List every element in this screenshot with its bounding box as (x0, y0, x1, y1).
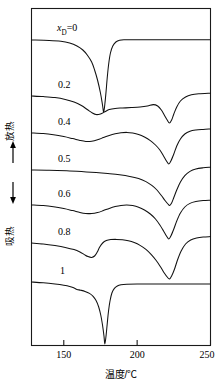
curve-label: 0.5 (58, 153, 71, 164)
y-axis-endothermic-label: 吸热 (4, 226, 15, 246)
x-axis-tick-label: 200 (130, 349, 145, 360)
dsc-chart-svg: 150200250 xD=00.20.40.50.60.81 温度/℃ 放热 吸… (0, 0, 220, 390)
curve-label: 0.6 (58, 188, 71, 199)
curve-label: 1 (60, 265, 65, 276)
y-axis-up-arrow-icon (10, 141, 16, 163)
curve-label: 0.4 (58, 116, 71, 127)
dsc-curve (32, 237, 211, 279)
x-axis-tick-labels: 150200250 (56, 349, 214, 360)
curve-labels-group: xD=00.20.40.50.60.81 (56, 22, 77, 276)
dsc-curve (32, 40, 211, 112)
curve-label: 0.2 (58, 79, 71, 90)
x-axis-tick-label: 150 (56, 349, 71, 360)
curve-label: 0.8 (58, 226, 71, 237)
y-axis-down-arrow-icon (10, 182, 16, 204)
x-axis-ticks (64, 340, 211, 346)
y-axis-exothermic-label: 放热 (4, 121, 15, 141)
curve-label: xD=0 (56, 22, 77, 37)
dsc-curve (32, 282, 211, 344)
dsc-curve (32, 167, 211, 205)
x-axis-title: 温度/℃ (105, 368, 138, 380)
x-axis-tick-label: 250 (200, 349, 215, 360)
dsc-chart-figure: 150200250 xD=00.20.40.50.60.81 温度/℃ 放热 吸… (0, 0, 220, 390)
